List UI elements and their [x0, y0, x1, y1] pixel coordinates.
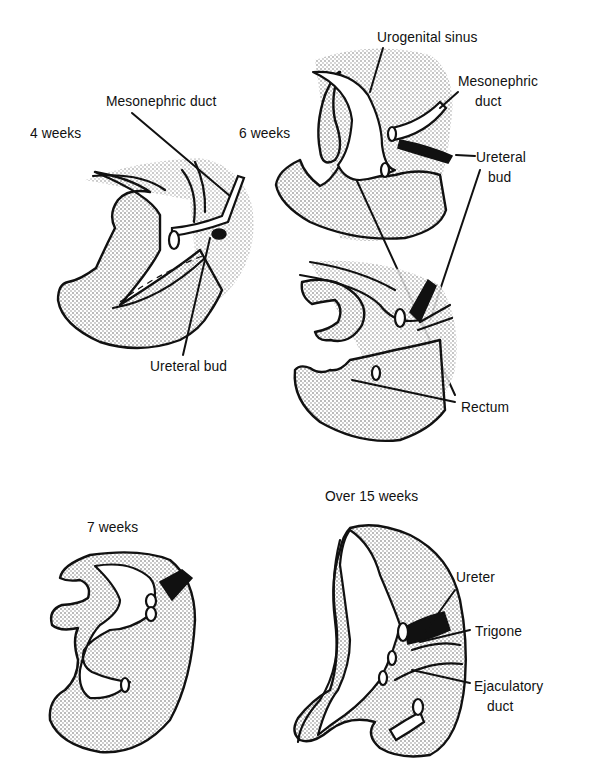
panel-over-15-weeks: [294, 525, 470, 756]
label-ejaculatory-line2: duct: [487, 697, 513, 714]
cloaca-6w-lower: [295, 340, 445, 441]
stage-label-4-weeks: 4 weeks: [30, 124, 81, 141]
diagram-drawing: [0, 0, 593, 782]
stage-label-6-weeks: 6 weeks: [239, 124, 290, 141]
label-mesonephric-line1: Mesonephric: [458, 72, 538, 89]
ureteric-orifice-15w: [398, 623, 408, 641]
panel-6-weeks-lower: [295, 261, 457, 441]
leader-ureteral-bud-6w: [456, 155, 475, 156]
ejaculatory-orifice-15w: [388, 651, 396, 665]
label-ureter: Ureter: [456, 568, 495, 585]
label-trigone: Trigone: [475, 622, 522, 639]
mesonephric-duct-opening-4w: [169, 231, 179, 249]
mesonephric-duct-opening-6w: [388, 127, 396, 141]
label-rectum: Rectum: [461, 398, 509, 415]
label-mesonephric-duct-4w: Mesonephric duct: [106, 92, 216, 109]
mesonephric-duct-opening-6w-lower: [395, 309, 405, 327]
stage-label-over-15-weeks: Over 15 weeks: [325, 487, 418, 504]
label-ejaculatory-line1: Ejaculatory: [474, 677, 543, 694]
rectum-6w-upper: [381, 163, 389, 177]
rectum-6w-lower: [372, 366, 380, 380]
rectum-7w: [121, 678, 129, 692]
label-ureteral-bud-4w: Ureteral bud: [150, 357, 227, 374]
label-mesonephric-line2: duct: [475, 92, 501, 109]
label-urogenital-sinus: Urogenital sinus: [377, 28, 477, 45]
mesonephric-opening-7w: [146, 607, 156, 621]
label-ureteral-bud-6w-line2: bud: [488, 168, 511, 185]
ureteral-bud-4w: [212, 229, 226, 239]
panel-4-weeks: [58, 113, 254, 355]
embryology-diagram: 4 weeks Mesonephric duct Ureteral bud 6 …: [0, 0, 593, 782]
panel-7-weeks: [50, 552, 195, 752]
stage-label-7-weeks: 7 weeks: [87, 518, 138, 535]
rectum-opening-15w: [413, 699, 423, 715]
orifice-3-15w: [379, 671, 387, 685]
label-ureteral-bud-6w-line1: Ureteral: [476, 148, 526, 165]
